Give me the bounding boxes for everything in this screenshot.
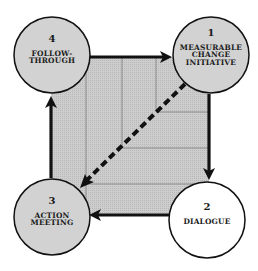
node-2-circle	[169, 182, 245, 258]
node-1-circle	[173, 17, 249, 93]
node-4-circle	[14, 17, 90, 93]
node-3-circle	[14, 179, 90, 255]
cycle-diagram	[0, 0, 258, 271]
